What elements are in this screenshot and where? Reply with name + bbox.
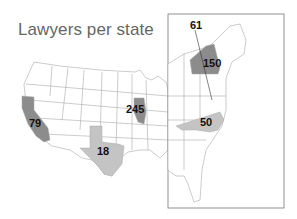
label-california: 79 xyxy=(29,117,41,129)
us-map: 79 18 245 150 50 61 xyxy=(0,0,297,219)
label-north-carolina: 50 xyxy=(200,116,212,128)
label-new-york: 150 xyxy=(203,57,221,69)
label-illinois: 245 xyxy=(126,103,144,115)
label-dc: 61 xyxy=(190,19,202,31)
label-texas: 18 xyxy=(97,145,109,157)
